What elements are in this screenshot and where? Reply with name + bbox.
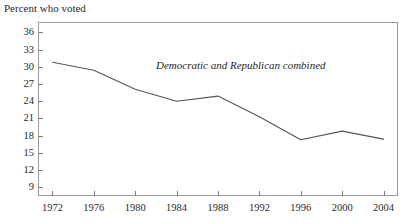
series-line xyxy=(52,62,383,140)
y-axis-tick-label: 33 xyxy=(4,44,34,55)
y-axis-tick-label: 15 xyxy=(4,148,34,159)
series-annotation-label: Democratic and Republican combined xyxy=(156,59,326,72)
y-axis-tick-label: 21 xyxy=(4,113,34,124)
y-axis-tick-label: 12 xyxy=(4,165,34,176)
y-axis-tick-label: 9 xyxy=(4,182,34,193)
y-axis-tick-label: 18 xyxy=(4,130,34,141)
y-axis-tick-label: 24 xyxy=(4,96,34,107)
plot-area: Democratic and Republican combined xyxy=(38,22,398,196)
x-axis-tick-labels: 197219761980198419881992199620002004 xyxy=(38,196,398,222)
y-axis-tick-label: 30 xyxy=(4,62,34,73)
x-axis-tick-label: 2004 xyxy=(358,202,410,214)
chart-page: Percent who voted 3633302724211815129 De… xyxy=(0,0,412,224)
series-line-chart xyxy=(38,22,398,196)
y-axis-tick-label: 36 xyxy=(4,27,34,38)
page-title: Percent who voted xyxy=(4,1,86,15)
y-axis-tick-label: 27 xyxy=(4,79,34,90)
y-axis-tick-labels: 3633302724211815129 xyxy=(0,22,34,196)
